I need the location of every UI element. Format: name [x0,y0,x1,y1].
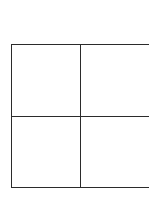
table-cell-text [81,45,149,116]
table-cell-text [12,45,80,116]
table-cell-r1c1[interactable] [12,45,81,117]
page-bottom-margin [0,188,149,198]
page-left-margin [0,44,11,188]
table-cell-text [81,117,149,188]
table-row [12,45,150,117]
empty-grid-table [11,44,149,188]
table-body [12,45,150,188]
table-container [11,44,149,188]
table-cell-r2c1[interactable] [12,116,81,188]
table-row [12,116,150,188]
table-cell-r2c2[interactable] [80,116,149,188]
table-cell-r1c2[interactable] [80,45,149,117]
table-cell-text [12,117,80,188]
document-page [0,0,149,198]
page-top-margin [0,0,149,44]
